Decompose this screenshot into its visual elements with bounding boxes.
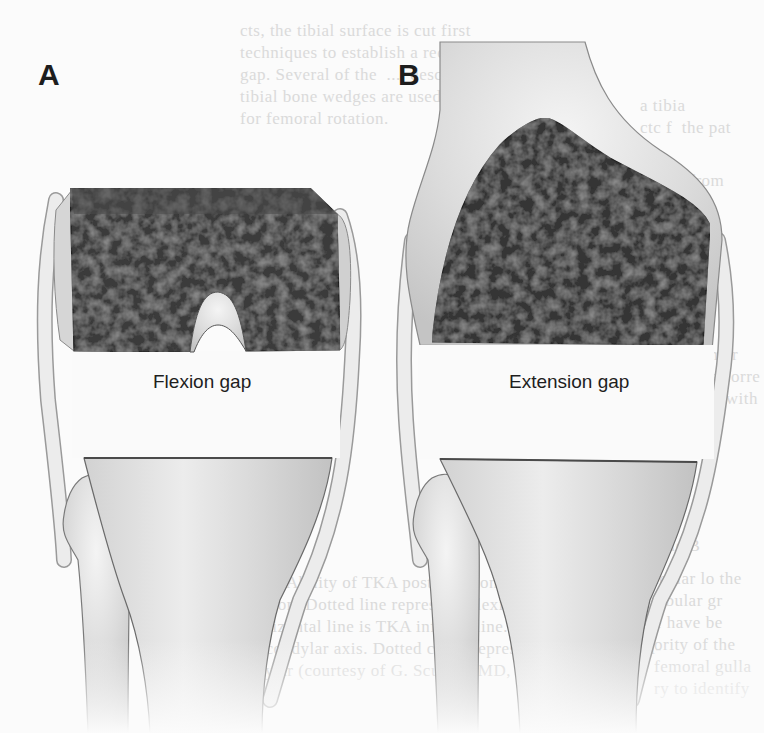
flexion-gap-space [72,351,340,458]
flexion-gap-label: Flexion gap [153,371,251,393]
knee-illustration [0,0,764,733]
panel-letter-b: B [398,58,420,92]
bottom-fade [0,640,764,733]
femur-top-bevel-a [72,188,337,214]
figure-canvas: cts, the tibial surface is cut first tec… [0,0,764,733]
extension-gap-label: Extension gap [509,371,629,393]
extension-gap-space [418,345,714,459]
panel-letter-a: A [38,58,60,92]
